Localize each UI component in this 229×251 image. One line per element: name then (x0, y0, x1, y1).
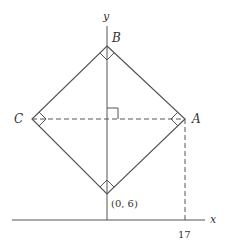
square-shape (32, 46, 185, 194)
x-axis-label: x (210, 213, 217, 226)
vertex-label-c: C (14, 112, 23, 126)
vertex-label-a: A (191, 112, 201, 126)
coordinate-diagram: y x B C A (0, 6) 17 (0, 0, 229, 251)
y-axis-label: y (102, 10, 110, 23)
vertex-label-bottom: (0, 6) (111, 198, 138, 209)
right-angle-marker-center (107, 108, 118, 119)
x-tick-label: 17 (178, 229, 191, 240)
vertex-label-b: B (111, 31, 121, 45)
